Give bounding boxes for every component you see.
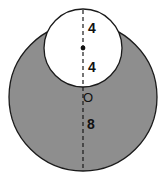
label-bottom-segment: 8 [87,116,95,132]
label-middle-segment: 4 [88,59,96,75]
label-center-o: O [83,90,93,105]
small-circle-center-dot [81,46,86,51]
circle-diagram: 4 4 O 8 [0,0,166,174]
label-top-segment: 4 [88,20,96,36]
